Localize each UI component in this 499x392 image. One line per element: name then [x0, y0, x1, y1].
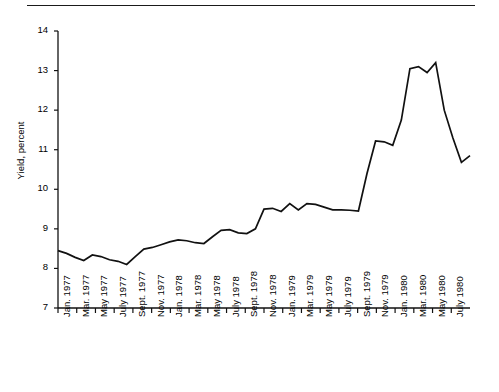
x-tick-label: July 1979 — [343, 276, 353, 317]
x-tick-label: May 1978 — [212, 275, 222, 317]
y-tick-label: 8 — [26, 262, 48, 272]
x-tick-label: July 1980 — [455, 276, 465, 317]
x-tick-label: Nov. 1977 — [156, 274, 166, 317]
x-tick-label: May 1980 — [437, 275, 447, 317]
yield-series-line — [58, 63, 470, 265]
x-tick-label: Jan. 1978 — [174, 275, 184, 317]
y-tick-label: 14 — [26, 25, 48, 35]
y-tick-label: 11 — [26, 144, 48, 154]
y-tick-label: 12 — [26, 104, 48, 114]
x-tick-label: Sept. 1979 — [362, 271, 372, 317]
line-chart-plot — [0, 0, 499, 392]
y-tick-label: 9 — [26, 223, 48, 233]
x-tick-label: Nov. 1978 — [268, 274, 278, 317]
y-tick-label: 7 — [26, 302, 48, 312]
x-tick-label: Sept. 1978 — [249, 271, 259, 317]
x-tick-label: Mar. 1977 — [81, 275, 91, 317]
x-tick-label: July 1977 — [118, 276, 128, 317]
y-tick-label: 10 — [26, 183, 48, 193]
x-tick-label: Mar. 1980 — [418, 275, 428, 317]
x-tick-label: Mar. 1978 — [193, 275, 203, 317]
x-tick-label: Mar. 1979 — [305, 275, 315, 317]
x-tick-label: Jan. 1980 — [399, 275, 409, 317]
x-tick-label: Sept. 1977 — [137, 271, 147, 317]
x-tick-label: May 1977 — [99, 275, 109, 317]
x-tick-label: Jan. 1979 — [287, 275, 297, 317]
x-tick-label: May 1979 — [324, 275, 334, 317]
x-tick-label: Jan. 1977 — [62, 275, 72, 317]
figure-container: Yield, percent 7891011121314 Jan. 1977Ma… — [0, 0, 499, 392]
x-tick-label: Nov. 1979 — [380, 274, 390, 317]
y-tick-label: 13 — [26, 65, 48, 75]
x-tick-label: July 1978 — [231, 276, 241, 317]
